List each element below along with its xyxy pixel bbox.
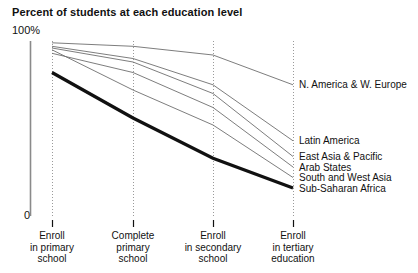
series-label-south-and-west-asia: South and West Asia	[299, 172, 392, 183]
series-line-n-america-w-europe	[52, 43, 293, 85]
x-axis-label-line: education	[245, 253, 341, 265]
x-axis-label-4: Enrollin tertiaryeducation	[245, 230, 341, 265]
chart-root: Percent of students at each education le…	[0, 0, 418, 273]
series-label-n-america-w-europe: N. America & W. Europe	[299, 79, 407, 90]
series-label-latin-america: Latin America	[299, 135, 360, 146]
series-line-south-and-west-asia	[52, 50, 293, 178]
series-label-sub-saharan-africa: Sub-Saharan Africa	[299, 183, 386, 194]
series-line-arab-states	[52, 53, 293, 167]
series-label-east-asia-pacific: East Asia & Pacific	[299, 151, 382, 162]
series-label-arab-states: Arab States	[299, 162, 351, 173]
x-axis-label-line: Enroll	[245, 230, 341, 242]
x-axis-label-line: in tertiary	[245, 242, 341, 254]
